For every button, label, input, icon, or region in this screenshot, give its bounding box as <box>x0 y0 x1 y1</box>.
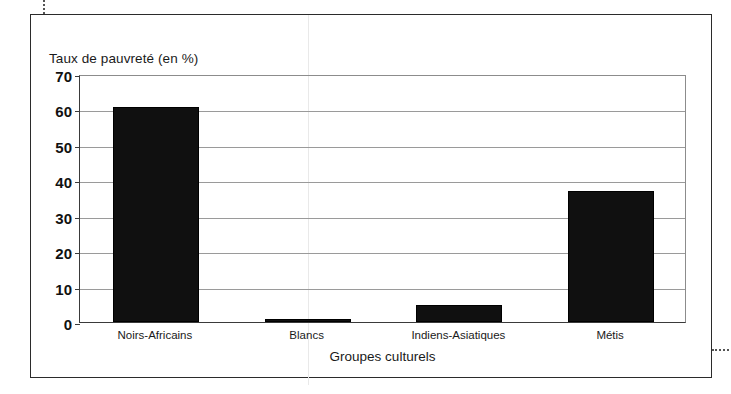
y-tick-label: 70 <box>55 68 72 85</box>
figure-frame: Taux de pauvreté (en %) 010203040506070 … <box>30 14 712 378</box>
x-tick-label: Noirs-Africains <box>117 329 192 341</box>
x-tick-label: Métis <box>596 329 623 341</box>
crop-mark-top <box>43 0 47 14</box>
y-tick-label: 20 <box>55 245 72 262</box>
y-tick-mark <box>75 324 80 325</box>
y-tick-label: 10 <box>55 280 72 297</box>
x-tick-label: Blancs <box>289 329 324 341</box>
y-tick-label: 60 <box>55 103 72 120</box>
bar <box>113 107 199 322</box>
bar <box>568 191 654 322</box>
y-tick-label: 50 <box>55 138 72 155</box>
y-axis-title: Taux de pauvreté (en %) <box>49 51 198 66</box>
bars-layer <box>80 76 685 322</box>
bar-chart: Taux de pauvreté (en %) 010203040506070 … <box>31 15 713 379</box>
y-tick-label: 0 <box>64 316 72 333</box>
crop-mark-right <box>712 349 729 353</box>
plot-area: 010203040506070 <box>79 75 686 323</box>
bar <box>265 319 351 322</box>
y-tick-label: 40 <box>55 174 72 191</box>
x-tick-label: Indiens-Asiatiques <box>411 329 505 341</box>
y-tick-label: 30 <box>55 209 72 226</box>
bar <box>416 305 502 322</box>
x-axis-title: Groupes culturels <box>79 349 686 364</box>
